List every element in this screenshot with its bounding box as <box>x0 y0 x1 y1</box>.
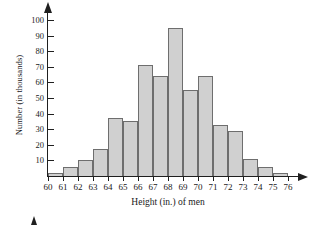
histogram-bar <box>78 160 93 176</box>
histogram-bar <box>183 90 198 176</box>
histogram-bar <box>153 76 168 176</box>
bottom-arrow-marker-icon <box>31 216 37 225</box>
histogram-bar <box>228 131 243 176</box>
x-axis-tick <box>168 177 169 181</box>
y-axis-tick-label: 100 <box>22 16 44 25</box>
y-axis-tick-label: 50 <box>22 94 44 103</box>
y-axis-arrowhead-icon <box>44 2 52 13</box>
y-axis-tick-label: 10 <box>22 156 44 165</box>
x-axis-tick <box>243 177 244 181</box>
histogram-bar <box>123 121 138 176</box>
bar-series <box>48 20 288 176</box>
histogram-bar <box>93 149 108 176</box>
x-axis-tick <box>228 177 229 181</box>
y-axis-tick-label: 40 <box>22 110 44 119</box>
x-axis-tick <box>63 177 64 181</box>
histogram-figure: Number (in thousands) 102030405060708090… <box>0 0 320 232</box>
histogram-bar <box>258 167 273 176</box>
x-axis-tick <box>48 177 49 181</box>
x-axis-tick <box>123 177 124 181</box>
histogram-bar <box>168 28 183 176</box>
x-axis-tick <box>93 177 94 181</box>
histogram-bar <box>48 173 63 176</box>
x-axis-tick <box>258 177 259 181</box>
histogram-bar <box>108 118 123 176</box>
histogram-bar <box>213 125 228 176</box>
x-axis-arrowhead-icon <box>298 173 308 181</box>
x-axis-label: Height (in.) of men <box>48 197 288 207</box>
histogram-bar <box>198 76 213 176</box>
histogram-bar <box>138 65 153 176</box>
x-axis-tick <box>288 177 289 181</box>
y-axis-tick-label: 30 <box>22 125 44 134</box>
y-axis-tick-label: 70 <box>22 63 44 72</box>
x-axis-tick-label: 76 <box>278 182 298 192</box>
x-axis-tick <box>153 177 154 181</box>
y-axis-tick-label: 60 <box>22 78 44 87</box>
x-axis-tick <box>198 177 199 181</box>
x-axis-tick <box>78 177 79 181</box>
x-axis-tick <box>183 177 184 181</box>
histogram-bar <box>243 159 258 176</box>
x-axis-tick <box>138 177 139 181</box>
y-axis-tick-label: 90 <box>22 32 44 41</box>
x-axis-tick <box>273 177 274 181</box>
x-axis-tick <box>108 177 109 181</box>
x-axis-line <box>47 176 299 177</box>
histogram-bar <box>63 167 78 176</box>
y-axis-tick-label: 80 <box>22 47 44 56</box>
histogram-bar <box>273 173 288 176</box>
x-axis-tick <box>213 177 214 181</box>
y-axis-tick-label: 20 <box>22 141 44 150</box>
